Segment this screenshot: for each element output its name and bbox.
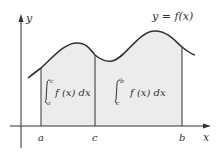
curve-label: y = f(x) [151, 10, 193, 23]
integral-additivity-diagram: y y = f(x) x a c b c a f (x) dx b c f (x… [0, 0, 223, 159]
integrand: f (x) dx [54, 87, 91, 98]
upper-limit: b [120, 77, 124, 84]
x-axis-label: x [203, 131, 210, 144]
shaded-area [41, 31, 182, 126]
y-axis-label: y [25, 12, 33, 25]
point-b-label: b [179, 132, 185, 143]
x-axis-arrow-icon [203, 124, 211, 129]
lower-limit: a [47, 99, 51, 106]
integrand: f (x) dx [129, 87, 166, 98]
point-a-label: a [38, 132, 44, 143]
point-c-label: c [92, 132, 98, 143]
y-axis-arrow-icon [19, 14, 24, 22]
